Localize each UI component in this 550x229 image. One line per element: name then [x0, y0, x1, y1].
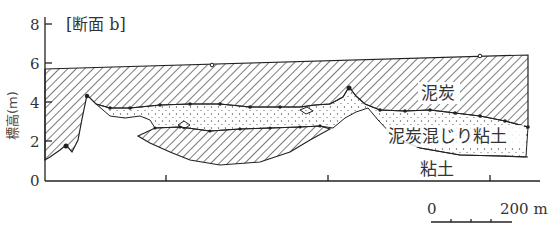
y-axis-label: 標高(m) — [5, 91, 20, 140]
scale-end-label: 200 m — [500, 200, 548, 218]
scale-bar — [431, 219, 512, 222]
survey-point-surface — [210, 63, 214, 67]
survey-point-surface — [478, 54, 482, 58]
y-tick-2: 2 — [30, 133, 40, 151]
y-tick-4: 4 — [30, 94, 40, 112]
y-tick-0: 0 — [30, 172, 40, 190]
lower-peat-lens — [138, 126, 330, 165]
scale-start-label: 0 — [427, 200, 437, 218]
y-tick-8: 8 — [30, 16, 40, 34]
cross-section-diagram: 0 2 4 6 8 標高(m) [断面 b] 泥炭 泥炭混じり粘土 粘土 0 2… — [0, 0, 550, 229]
y-tick-6: 6 — [30, 55, 40, 73]
label-clay: 粘土 — [420, 159, 454, 179]
label-peat: 泥炭 — [421, 83, 455, 103]
label-peaty-clay: 泥炭混じり粘土 — [388, 126, 507, 146]
section-title: [断面 b] — [66, 15, 126, 34]
